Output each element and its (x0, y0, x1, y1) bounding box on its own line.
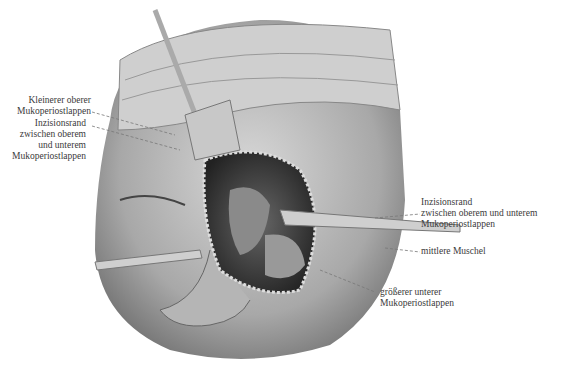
label-inzisionsrand-zwischen-oberem-und-unterem: Inzisionsrand zwischen oberem und untere… (4, 118, 86, 162)
label-line: Mukoperiostlappen (4, 106, 91, 117)
illustration: Kleinerer oberer Mukoperiostlappen Inzis… (0, 0, 563, 371)
label-line: mittlere Muschel (421, 246, 486, 257)
label-mittlere-muschel: mittlere Muschel (421, 246, 486, 257)
label-inzisionsrand-right: Inzisionsrand zwischen oberem und untere… (421, 197, 537, 230)
label-line: Inzisionsrand (4, 118, 86, 129)
label-line: Mukoperiostlappen (4, 151, 86, 162)
label-line: Inzisionsrand (421, 197, 537, 208)
label-kleinerer-oberer-mukoperiostlappen: Kleinerer oberer Mukoperiostlappen (4, 95, 91, 117)
label-line: zwischen oberem (4, 129, 86, 140)
label-line: und unterem (4, 140, 86, 151)
label-line: Kleinerer oberer (4, 95, 91, 106)
label-line: zwischen oberem und unterem (421, 208, 537, 219)
face-drawing (0, 0, 563, 371)
label-line: Mukoperiostlappen (421, 219, 537, 230)
label-groesserer-unterer-mukoperiostlappen: größerer unterer Mukoperiostlappen (380, 287, 454, 309)
label-line: Mukoperiostlappen (380, 298, 454, 309)
label-line: größerer unterer (380, 287, 454, 298)
